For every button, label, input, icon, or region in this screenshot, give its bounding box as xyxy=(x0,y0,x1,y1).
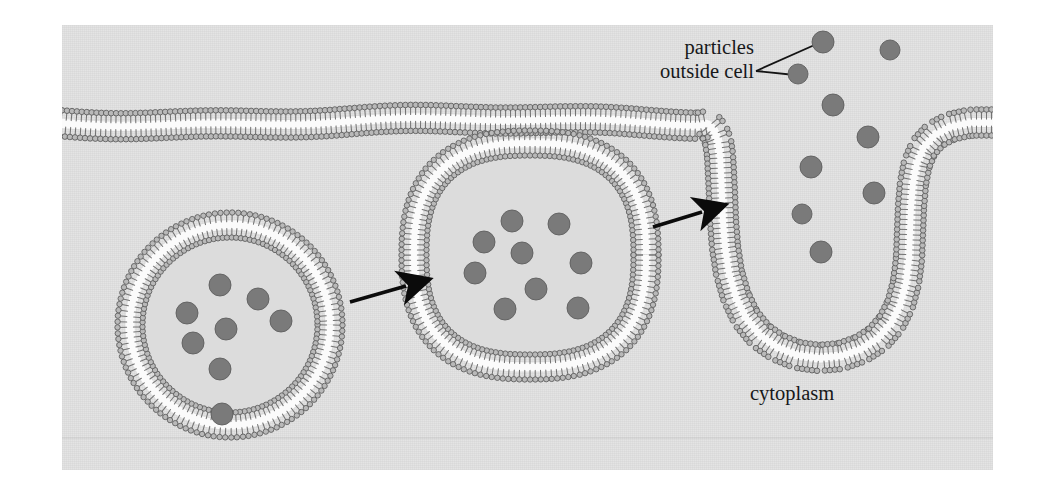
figure-stage: particles outside cell cytoplasm xyxy=(0,0,1039,498)
particle xyxy=(570,252,592,274)
particle xyxy=(788,64,808,84)
particle xyxy=(857,126,879,148)
particle xyxy=(211,403,233,425)
particle xyxy=(464,262,486,284)
particle xyxy=(215,318,237,340)
particle xyxy=(511,242,533,264)
particle xyxy=(567,297,589,319)
particles-vesicle-middle xyxy=(464,210,592,320)
particle xyxy=(209,274,231,296)
diagram-canvas: particles outside cell cytoplasm xyxy=(62,25,993,470)
particles-layer xyxy=(176,31,900,425)
particle xyxy=(209,358,231,380)
annotation-layer xyxy=(62,25,993,470)
particle xyxy=(182,332,204,354)
particle xyxy=(822,94,844,116)
label-leader-lines xyxy=(756,43,819,75)
particle xyxy=(792,204,812,224)
particles-in-invagination xyxy=(792,126,885,263)
label-cytoplasm: cytoplasm xyxy=(750,381,834,405)
particle xyxy=(810,241,832,263)
particle xyxy=(270,310,292,332)
particle xyxy=(494,298,516,320)
particle xyxy=(863,182,885,204)
label-particles-line2: outside cell xyxy=(660,59,754,83)
arrow-vesicle-pinch xyxy=(653,212,702,227)
particles-outside-cell xyxy=(788,31,900,116)
particle xyxy=(176,302,198,324)
label-particles-outside-cell: particles outside cell xyxy=(660,35,754,83)
particle xyxy=(800,156,822,178)
particle xyxy=(525,278,547,300)
particle xyxy=(880,40,900,60)
leader-to-particle-upper xyxy=(756,43,819,71)
particle xyxy=(473,231,495,253)
particle xyxy=(812,31,834,53)
label-particles-line1: particles xyxy=(660,35,754,59)
particle xyxy=(548,213,570,235)
arrow-vesicle-growth xyxy=(350,286,406,302)
particles-vesicle-left xyxy=(176,274,292,425)
particle xyxy=(501,210,523,232)
particle xyxy=(247,288,269,310)
